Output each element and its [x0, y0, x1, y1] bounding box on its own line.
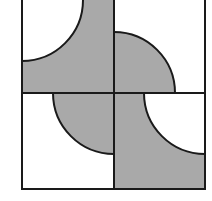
cell-bottom-left — [22, 93, 114, 189]
cell-top-right — [114, 0, 205, 93]
cell-bottom-right — [114, 93, 205, 189]
cell-top-left — [22, 0, 114, 93]
quarter-circle-grid-diagram — [0, 0, 212, 201]
